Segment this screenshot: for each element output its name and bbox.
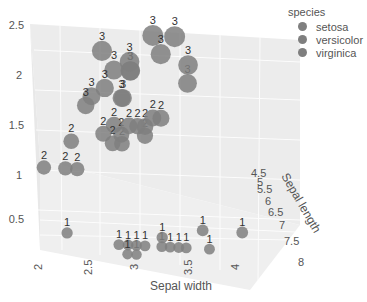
legend-title: species <box>288 6 363 18</box>
svg-text:4: 4 <box>229 264 241 270</box>
svg-text:2.5: 2.5 <box>82 260 94 275</box>
data-point[interactable] <box>204 244 215 255</box>
point-label: 1 <box>133 229 139 241</box>
legend-item-versicolor[interactable]: versicolor <box>288 33 363 46</box>
point-label: 2 <box>68 122 74 134</box>
point-label: 3 <box>127 41 133 53</box>
point-label: 1 <box>200 214 206 226</box>
data-point[interactable] <box>92 41 112 61</box>
svg-text:7.5: 7.5 <box>284 235 299 247</box>
point-label: 2 <box>158 99 164 111</box>
point-label: 2 <box>100 115 106 127</box>
legend-item-setosa[interactable]: setosa <box>288 20 363 33</box>
data-point[interactable] <box>236 227 248 239</box>
data-point[interactable] <box>131 240 142 251</box>
svg-text:7: 7 <box>279 219 285 231</box>
point-label: 3 <box>158 33 164 45</box>
legend-marker <box>298 35 307 44</box>
data-point[interactable] <box>63 133 79 149</box>
point-label: 3 <box>185 44 191 56</box>
svg-text:1.5: 1.5 <box>9 119 24 131</box>
data-point[interactable] <box>37 160 51 174</box>
data-point[interactable] <box>77 97 94 114</box>
data-point[interactable] <box>173 242 184 253</box>
data-point[interactable] <box>122 249 132 259</box>
data-point[interactable] <box>70 162 84 176</box>
data-point[interactable] <box>197 225 209 237</box>
point-label: 3 <box>111 49 117 61</box>
z-axis-ticks: 2.5 2 1.5 1 0.5 <box>9 19 24 225</box>
point-label: 1 <box>125 238 131 250</box>
data-point[interactable] <box>95 126 111 142</box>
point-label: 1 <box>206 233 212 245</box>
svg-text:6.5: 6.5 <box>268 206 283 218</box>
point-label: 3 <box>119 78 125 90</box>
data-point[interactable] <box>152 110 169 127</box>
svg-text:2.5: 2.5 <box>9 19 24 31</box>
data-point[interactable] <box>178 74 197 93</box>
svg-text:8: 8 <box>298 256 304 268</box>
point-label: 3 <box>172 15 178 27</box>
point-label: 1 <box>142 229 148 241</box>
data-point[interactable] <box>157 232 168 243</box>
point-label: 1 <box>159 221 165 233</box>
point-label: 2 <box>126 107 132 119</box>
legend-item-virginica[interactable]: virginica <box>288 46 363 59</box>
point-label: 3 <box>99 30 105 42</box>
data-point[interactable] <box>151 44 171 64</box>
data-point[interactable] <box>96 79 114 97</box>
data-point[interactable] <box>131 249 141 259</box>
data-point[interactable] <box>113 239 124 250</box>
svg-text:3.5: 3.5 <box>182 260 194 275</box>
legend-marker <box>298 22 307 31</box>
data-point[interactable] <box>178 55 198 75</box>
point-label: 1 <box>239 216 245 228</box>
svg-text:1: 1 <box>16 169 22 181</box>
point-label: 3 <box>102 68 108 80</box>
x-axis-label: Sepal width <box>150 279 212 293</box>
point-label: 2 <box>74 151 80 163</box>
point-label: 3 <box>83 86 89 98</box>
svg-text:3: 3 <box>128 264 140 270</box>
data-point[interactable] <box>113 89 131 107</box>
point-label: 1 <box>167 231 173 243</box>
point-label: 3 <box>150 14 156 26</box>
legend: species setosa versicolor virginica <box>288 6 363 59</box>
svg-text:5.5: 5.5 <box>257 183 272 195</box>
svg-text:2: 2 <box>16 69 22 81</box>
data-point[interactable] <box>61 227 72 238</box>
point-label: 1 <box>64 216 70 228</box>
legend-marker <box>298 48 307 57</box>
data-point[interactable] <box>164 26 185 47</box>
point-label: 3 <box>89 76 95 88</box>
point-label: 1 <box>176 231 182 243</box>
point-label: 2 <box>62 150 68 162</box>
data-point[interactable] <box>121 118 138 135</box>
point-label: 1 <box>116 228 122 240</box>
point-label: 2 <box>111 106 117 118</box>
point-label: 2 <box>41 149 47 161</box>
svg-text:0.5: 0.5 <box>9 213 24 225</box>
point-label: 1 <box>183 231 189 243</box>
point-label: 2 <box>150 98 156 110</box>
point-label: 2 <box>134 107 140 119</box>
svg-text:2: 2 <box>32 264 44 270</box>
